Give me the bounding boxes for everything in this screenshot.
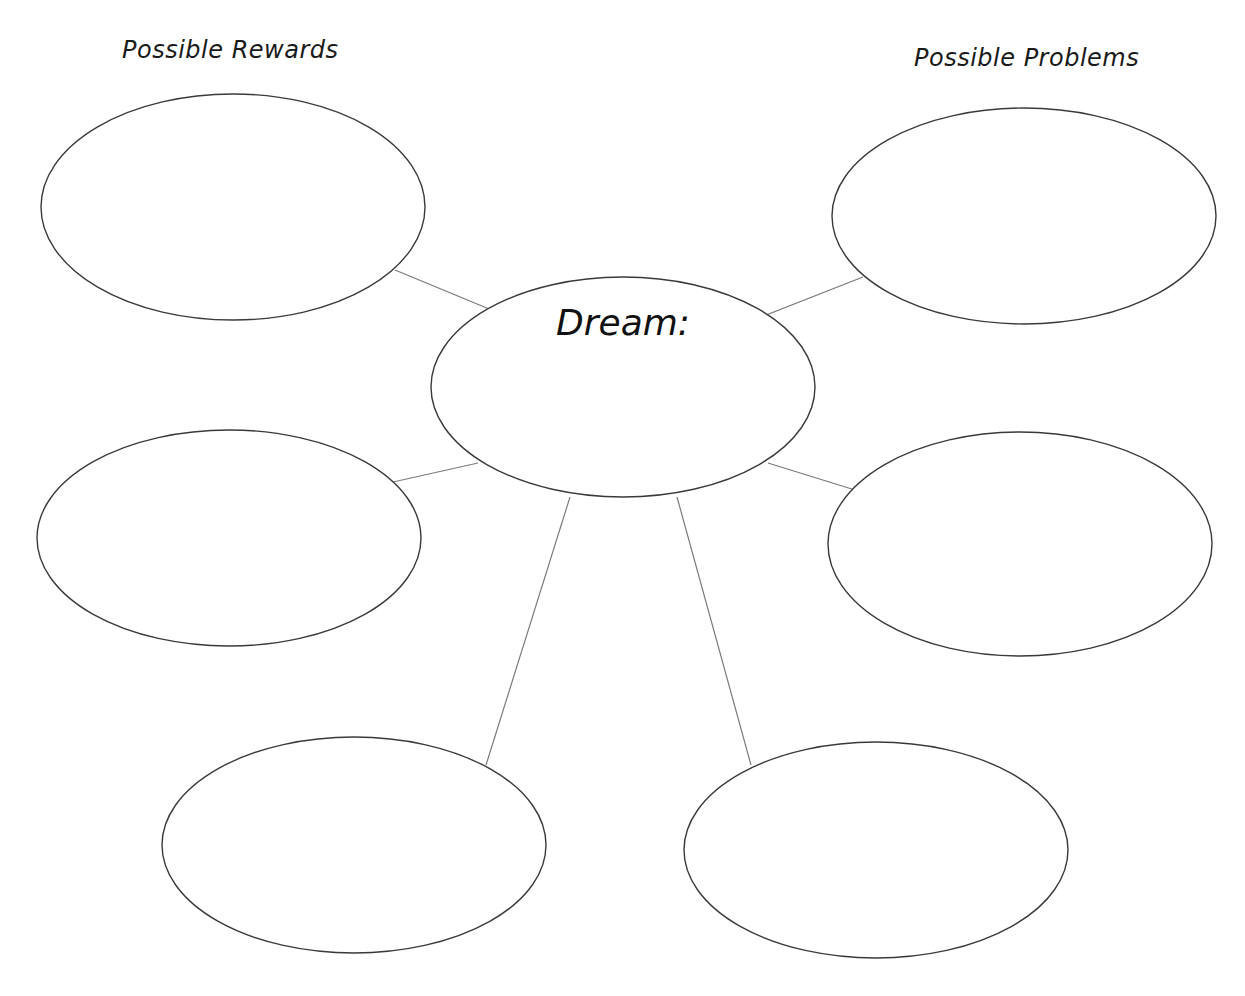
- reward-2-fill-area[interactable]: [76, 458, 382, 618]
- connector-center-to-reward-2: [393, 463, 478, 482]
- reward-1-fill-area[interactable]: [80, 125, 386, 289]
- connector-center-to-reward-1: [395, 270, 494, 311]
- connector-center-to-problem-3: [677, 497, 751, 765]
- problem-3-fill-area[interactable]: [723, 770, 1029, 930]
- possible-problems-heading: Possible Problems: [914, 44, 1139, 72]
- connector-center-to-problem-2: [768, 463, 855, 490]
- possible-rewards-heading: Possible Rewards: [122, 36, 339, 64]
- dream-fill-area[interactable]: [480, 350, 766, 470]
- connector-center-to-problem-1: [761, 277, 863, 317]
- mind-map-worksheet: Possible Rewards Possible Problems Dream…: [0, 0, 1245, 996]
- dream-label: Dream:: [556, 302, 690, 343]
- connector-center-to-reward-3: [486, 497, 570, 765]
- reward-3-fill-area[interactable]: [201, 765, 507, 925]
- problem-2-fill-area[interactable]: [867, 462, 1173, 626]
- problem-1-fill-area[interactable]: [871, 136, 1177, 296]
